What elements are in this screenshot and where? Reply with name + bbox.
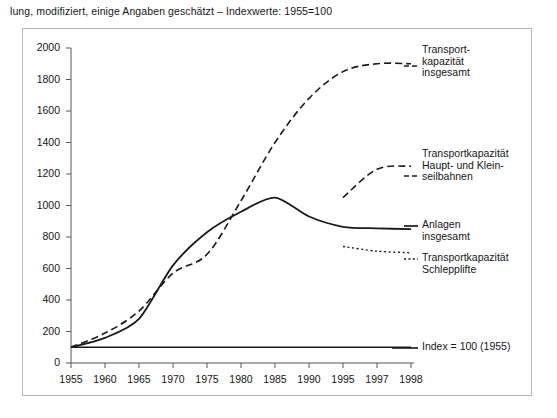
y-tick-label: 1000 — [18, 199, 60, 211]
figure-caption: lung, modifiziert, einige Angaben geschä… — [10, 5, 332, 17]
y-tick-label: 1200 — [18, 167, 60, 179]
series-annotation-4: Index = 100 (1955) — [422, 341, 510, 353]
y-tick-label: 2000 — [18, 41, 60, 53]
y-tick-label: 400 — [18, 293, 60, 305]
y-tick-label: 0 — [18, 356, 60, 368]
y-tick-label: 800 — [18, 230, 60, 242]
series-annotation-1: Transportkapazität Haupt- und Klein- sei… — [422, 148, 509, 183]
series-annotation-0: Transport- kapazität insgesamt — [422, 44, 470, 79]
y-tick-label: 600 — [18, 262, 60, 274]
y-tick-label: 1600 — [18, 104, 60, 116]
series-annotation-3: Transportkapazität Schlepplifte — [422, 252, 509, 275]
series-annotation-2: Anlagen insgesamt — [422, 219, 470, 242]
y-tick-label: 200 — [18, 325, 60, 337]
x-tick-label: 1998 — [391, 373, 431, 385]
y-tick-label: 1800 — [18, 73, 60, 85]
y-tick-label: 1400 — [18, 136, 60, 148]
